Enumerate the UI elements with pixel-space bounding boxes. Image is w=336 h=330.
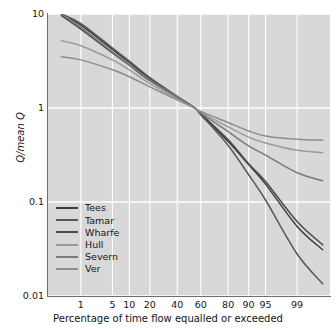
legend-item[interactable]: Wharfe	[56, 226, 119, 238]
y-axis-line	[47, 13, 48, 297]
legend-label: Tees	[85, 203, 106, 213]
legend-item[interactable]: Tees	[56, 202, 119, 214]
series-line-ver	[61, 57, 322, 140]
y-tick-label: 0.01	[0, 290, 44, 301]
legend-swatch-line-icon	[56, 244, 78, 246]
legend-label: Ver	[85, 264, 101, 274]
legend-label: Hull	[85, 240, 103, 250]
x-tick-label: 99	[277, 299, 317, 310]
legend-label: Tamar	[85, 216, 114, 226]
legend-swatch-line-icon	[56, 231, 78, 233]
legend: TeesTamarWharfeHullSevernVer	[56, 202, 119, 275]
legend-item[interactable]: Severn	[56, 251, 119, 263]
x-axis-title: Percentage of time flow equalled or exce…	[0, 313, 336, 324]
y-tick-label: 0.1	[0, 196, 44, 207]
legend-swatch-line-icon	[56, 268, 78, 270]
legend-swatch-line-icon	[56, 219, 78, 221]
y-tick-label: 10	[0, 8, 44, 19]
legend-swatch-line-icon	[56, 256, 78, 258]
x-axis-line	[47, 296, 331, 297]
y-axis-title: Q/mean Q	[15, 98, 26, 178]
legend-swatch-line-icon	[56, 207, 78, 209]
legend-label: Severn	[85, 252, 118, 262]
series-line-hull	[61, 41, 322, 153]
flow-duration-curve-figure: 1010.10.01 Q/mean Q 151020406080909599 P…	[0, 0, 336, 330]
legend-label: Wharfe	[85, 228, 119, 238]
legend-item[interactable]: Tamar	[56, 214, 119, 226]
legend-item[interactable]: Hull	[56, 239, 119, 251]
legend-item[interactable]: Ver	[56, 263, 119, 275]
